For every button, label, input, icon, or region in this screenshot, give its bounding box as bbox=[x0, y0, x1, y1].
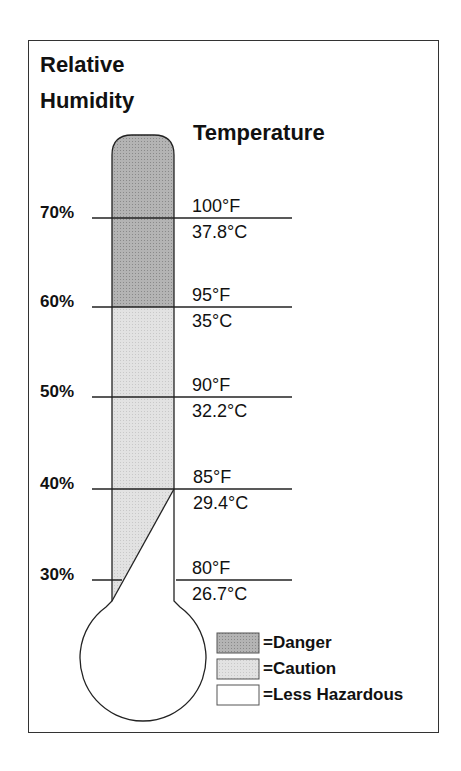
fahrenheit-label: 85°F bbox=[193, 467, 231, 488]
fahrenheit-label: 90°F bbox=[192, 375, 230, 396]
celsius-label: 37.8°C bbox=[192, 222, 247, 243]
temperature-title: Temperature bbox=[193, 120, 325, 146]
danger-zone bbox=[112, 135, 174, 307]
celsius-label: 29.4°C bbox=[193, 493, 248, 514]
fahrenheit-label: 95°F bbox=[192, 285, 230, 306]
humidity-title-line1: Relative bbox=[40, 52, 124, 78]
celsius-label: 32.2°C bbox=[192, 401, 247, 422]
legend-label-danger: =Danger bbox=[263, 633, 332, 653]
fahrenheit-label: 80°F bbox=[192, 558, 230, 579]
legend-swatch-danger bbox=[217, 633, 259, 653]
legend-swatch-less-hazardous bbox=[217, 685, 259, 705]
celsius-label: 26.7°C bbox=[192, 584, 247, 605]
legend-label-caution: =Caution bbox=[263, 659, 336, 679]
humidity-label: 70% bbox=[40, 203, 74, 223]
humidity-title-line2: Humidity bbox=[40, 88, 134, 114]
fahrenheit-label: 100°F bbox=[192, 196, 240, 217]
celsius-label: 35°C bbox=[192, 311, 232, 332]
legend-swatch-caution bbox=[217, 659, 259, 679]
caution-zone bbox=[112, 307, 174, 601]
legend-label-less-hazardous: =Less Hazardous bbox=[263, 685, 403, 705]
humidity-label: 60% bbox=[40, 292, 74, 312]
humidity-label: 40% bbox=[40, 474, 74, 494]
humidity-label: 30% bbox=[40, 565, 74, 585]
humidity-label: 50% bbox=[40, 382, 74, 402]
